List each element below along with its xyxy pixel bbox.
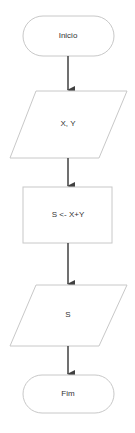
end-terminal-label: Fim xyxy=(61,389,74,399)
process-label: S <- X+Y xyxy=(52,210,84,220)
start-terminal-label: Inicio xyxy=(59,31,78,41)
output-label: S xyxy=(65,310,70,320)
input-label: X, Y xyxy=(61,119,76,129)
flowchart: Inicio X, Y S <- X+Y S Fim xyxy=(0,0,135,433)
